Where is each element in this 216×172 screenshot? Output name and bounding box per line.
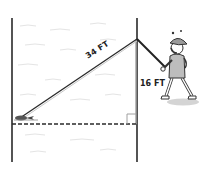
fishing-rod (137, 39, 165, 67)
hypotenuse (20, 39, 137, 118)
angler-icon (161, 30, 199, 106)
hypotenuse-shadow (22, 41, 137, 119)
vertical-leg-length-label: 16 FT (140, 79, 165, 88)
right-angle-marker (127, 114, 136, 124)
diagram-canvas (0, 0, 216, 172)
diagram: 34 FT 16 FT (0, 0, 216, 172)
